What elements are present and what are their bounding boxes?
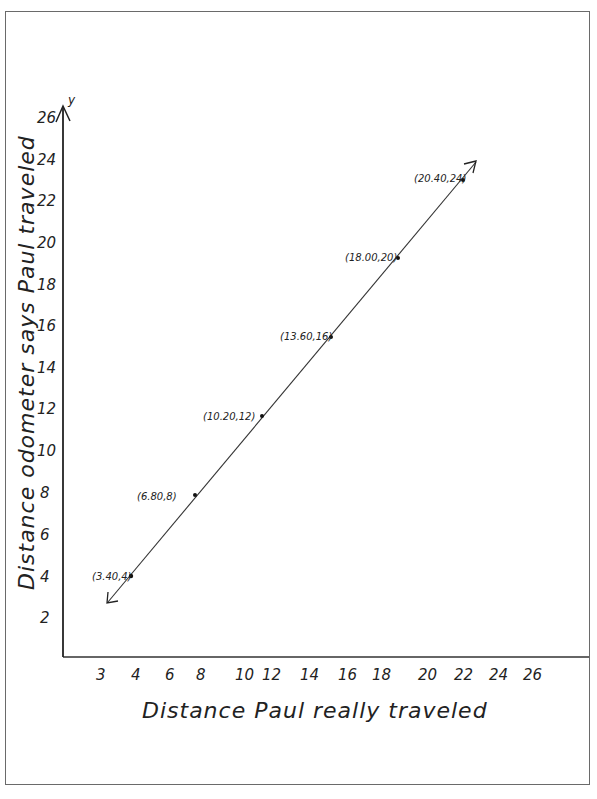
point-label: (10.20,12) (203, 411, 255, 422)
x-tick-label: 16 (338, 666, 357, 684)
x-tick-label: 22 (454, 666, 473, 684)
x-tick-label: 14 (300, 666, 319, 684)
x-tick-label: 10 (235, 666, 254, 684)
y-tick-label: 26 (37, 109, 56, 127)
line-chart: y 2 4 6 8 10 12 14 16 18 20 22 24 26 3 4… (0, 0, 597, 799)
y-tick-label: 16 (37, 317, 56, 335)
y-tick-label: 14 (37, 359, 56, 377)
data-points (129, 178, 465, 578)
y-tick-label: 10 (37, 442, 56, 460)
y-tick-label: 2 (40, 609, 50, 627)
x-tick-label: 6 (165, 666, 175, 684)
x-tick-label: 26 (523, 666, 542, 684)
y-tick-label: 22 (37, 192, 56, 210)
y-axis-title: Distance odometer says Paul traveled (14, 135, 39, 590)
x-tick-label: 20 (418, 666, 437, 684)
data-line (108, 162, 476, 602)
x-tick-label: 4 (131, 666, 141, 684)
y-tick-label: 8 (40, 484, 50, 502)
x-tick-label: 18 (372, 666, 391, 684)
line-end-arrow-icon (464, 161, 476, 173)
point-label: (20.40,24) (414, 173, 466, 184)
y-tick-label: 4 (40, 568, 50, 586)
data-point (193, 493, 197, 497)
x-axis-title: Distance Paul really traveled (142, 698, 488, 723)
point-label: (13.60,16) (280, 331, 332, 342)
y-tick-labels: 2 4 6 8 10 12 14 16 18 20 22 24 26 (37, 109, 56, 627)
x-tick-label: 24 (489, 666, 508, 684)
y-tick-label: 20 (37, 234, 56, 252)
x-tick-label: 3 (96, 666, 106, 684)
y-tick-label: 12 (37, 400, 56, 418)
point-label: (3.40,4) (92, 571, 132, 582)
point-labels: (3.40,4) (6.80,8) (10.20,12) (13.60,16) … (92, 173, 466, 582)
y-tick-label: 18 (37, 276, 56, 294)
point-label: (6.80,8) (137, 491, 177, 502)
x-tick-label: 12 (262, 666, 281, 684)
x-tick-label: 8 (196, 666, 206, 684)
x-tick-labels: 3 4 6 8 10 12 14 16 18 20 22 24 26 (96, 666, 542, 684)
point-label: (18.00,20) (345, 252, 397, 263)
y-tick-label: 6 (40, 526, 50, 544)
y-tick-label: 24 (37, 151, 56, 169)
data-point (260, 414, 264, 418)
y-axis-arrow-label: y (67, 93, 76, 107)
